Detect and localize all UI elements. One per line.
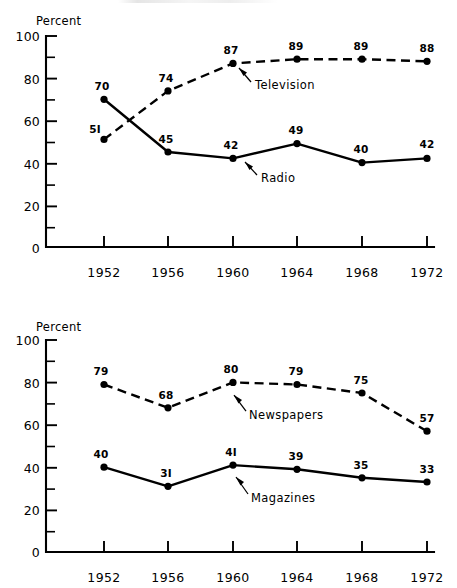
x-tick-label-1968-top: 1968 — [345, 265, 378, 280]
x-ticks-bottom — [104, 541, 427, 552]
data-label-radio-1956: 45 — [158, 133, 173, 145]
y-tick-label-40-bottom: 40 — [24, 461, 40, 476]
data-label-newspapers-1952: 79 — [93, 365, 108, 377]
series-line-radio — [104, 99, 427, 162]
x-tick-label-1956-top: 1956 — [151, 265, 184, 280]
series-markers-television — [100, 56, 430, 143]
annotation-label-television: Television — [254, 78, 315, 92]
data-label-newspapers-1964: 79 — [288, 365, 303, 377]
data-label-magazines-1952: 40 — [93, 448, 108, 460]
series-line-magazines — [104, 465, 427, 486]
y-axis-title-bottom: Percent — [36, 320, 82, 334]
y-tick-label-60-bottom: 60 — [24, 418, 40, 433]
data-label-radio-1968: 40 — [353, 143, 368, 155]
x-ticks-top — [104, 236, 427, 247]
data-label-magazines-1972: 33 — [419, 463, 434, 475]
series-line-newspapers — [104, 382, 427, 431]
y-axis-title-top: Percent — [36, 14, 82, 28]
y-tick-label-20-bottom: 20 — [24, 503, 40, 518]
y-tick-label-80-top: 80 — [24, 72, 40, 87]
data-label-television-1972: 88 — [419, 42, 434, 54]
data-label-newspapers-1956: 68 — [158, 389, 173, 401]
x-tick-label-1972-bottom: 1972 — [410, 570, 443, 585]
y-tick-label-0-bottom: 0 — [32, 545, 40, 560]
data-label-radio-1952: 70 — [94, 80, 109, 92]
annotation-radio: Radio — [245, 162, 295, 185]
x-tick-label-1952-top: 1952 — [87, 265, 120, 280]
data-label-television-1960: 87 — [223, 44, 238, 56]
y-tick-label-0-top: 0 — [32, 241, 40, 256]
x-tick-label-1960-top: 1960 — [216, 265, 249, 280]
data-label-magazines-1964: 39 — [288, 450, 303, 462]
data-label-radio-1960: 42 — [223, 139, 238, 151]
annotation-newspapers: Newspapers — [234, 395, 324, 422]
y-minor-ticks-top — [46, 57, 55, 227]
data-label-television-1956: 74 — [158, 72, 173, 84]
annotation-television: Television — [239, 68, 315, 92]
x-tick-label-1968-bottom: 1968 — [345, 570, 378, 585]
data-label-radio-1964: 49 — [288, 124, 303, 136]
series-markers-magazines — [100, 462, 430, 490]
y-tick-label-60-top: 60 — [24, 114, 40, 129]
y-major-ticks-bottom — [46, 340, 57, 510]
x-tick-label-1956-bottom: 1956 — [151, 570, 184, 585]
data-label-newspapers-1960: 80 — [223, 363, 238, 375]
chart-television-radio: Percent 100 80 60 40 20 0 — [0, 0, 457, 294]
data-label-magazines-1956: 3I — [160, 467, 172, 479]
y-tick-label-40-top: 40 — [24, 157, 40, 172]
annotation-label-magazines: Magazines — [251, 491, 316, 505]
x-tick-label-1960-bottom: 1960 — [216, 570, 249, 585]
chart-bottom-svg: Percent 100 80 60 40 20 0 — [0, 294, 457, 588]
data-label-television-1964: 89 — [288, 40, 303, 52]
data-label-newspapers-1972: 57 — [419, 412, 434, 424]
y-tick-label-80-bottom: 80 — [24, 376, 40, 391]
series-markers-radio — [100, 96, 430, 166]
annotation-label-newspapers: Newspapers — [249, 408, 324, 422]
data-label-magazines-1968: 35 — [353, 459, 368, 471]
x-tick-label-1972-top: 1972 — [410, 265, 443, 280]
series-markers-newspapers — [100, 379, 430, 435]
y-tick-label-100-top: 100 — [16, 29, 40, 44]
data-label-magazines-1960: 4I — [225, 446, 237, 458]
data-label-television-1968: 89 — [353, 40, 368, 52]
x-tick-label-1952-bottom: 1952 — [87, 570, 120, 585]
annotation-label-radio: Radio — [261, 171, 295, 185]
y-tick-label-100-bottom: 100 — [16, 333, 40, 348]
chart-newspapers-magazines: Percent 100 80 60 40 20 0 — [0, 294, 457, 588]
x-tick-label-1964-bottom: 1964 — [280, 570, 313, 585]
y-minor-ticks-bottom — [46, 361, 55, 531]
y-major-ticks-top — [46, 36, 57, 206]
y-tick-label-20-top: 20 — [24, 199, 40, 214]
annotation-magazines: Magazines — [236, 477, 316, 505]
data-label-television-1952: 5I — [89, 123, 101, 135]
x-tick-label-1964-top: 1964 — [280, 265, 313, 280]
data-label-newspapers-1968: 75 — [353, 374, 368, 386]
chart-page: Percent 100 80 60 40 20 0 — [0, 0, 457, 588]
series-line-television — [104, 59, 427, 139]
chart-top-svg: Percent 100 80 60 40 20 0 — [0, 0, 457, 294]
data-label-radio-1972: 42 — [419, 138, 434, 150]
